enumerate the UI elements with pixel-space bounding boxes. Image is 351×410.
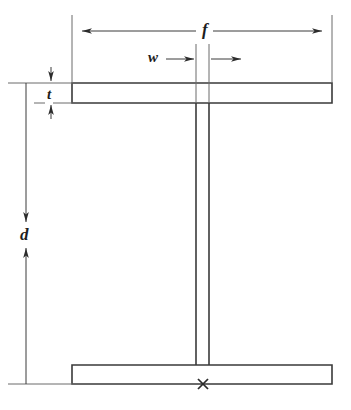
dimension-label-flange-width: f <box>198 21 212 38</box>
beam-cross-section-diagram: f w t d <box>0 0 351 410</box>
beam-outline <box>72 83 332 384</box>
beam-drawing-canvas <box>0 0 351 410</box>
dimension-label-depth: d <box>18 223 31 246</box>
dimension-label-web-thickness: w <box>146 50 160 65</box>
bottom-flange-shape <box>72 365 332 384</box>
dimension-label-flange-thickness: t <box>45 85 53 104</box>
extension-lines <box>8 15 332 384</box>
top-flange-shape <box>72 83 332 103</box>
